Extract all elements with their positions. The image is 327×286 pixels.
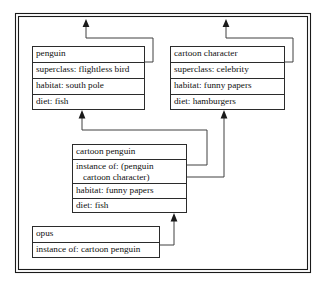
cartoon-character-frame-header: cartoon character xyxy=(171,47,284,63)
cartoon-character-slot-habitat: habitat: funny papers xyxy=(171,79,284,95)
cartoon-penguin-slot-diet: diet: fish xyxy=(73,199,186,214)
cartoon-penguin-frame-header: cartoon penguin xyxy=(73,145,186,160)
opus-frame-header: opus xyxy=(33,227,159,243)
penguin-slot-superclass: superclass: flightless bird xyxy=(33,63,144,79)
cartoon-penguin-frame[interactable]: cartoon penguin instance of: (penguin ca… xyxy=(72,144,187,213)
arrowhead-cartoon-character-superclass xyxy=(223,19,230,27)
arrowhead-opus-to-cartoon-penguin xyxy=(171,213,178,222)
connector-opus-to-cartoon-penguin xyxy=(160,221,174,245)
arrowhead-cartoon-penguin-to-penguin xyxy=(79,110,86,119)
penguin-frame-header: penguin xyxy=(33,47,144,63)
arrowhead-penguin-superclass xyxy=(83,19,90,27)
diagram-canvas: penguin superclass: flightless bird habi… xyxy=(0,0,327,286)
penguin-slot-habitat: habitat: south pole xyxy=(33,79,144,95)
connector-cartoon-penguin-to-cartoon-character xyxy=(187,118,224,177)
penguin-slot-diet: diet: fish xyxy=(33,95,144,111)
opus-frame[interactable]: opus instance of: cartoon penguin xyxy=(32,226,160,258)
opus-slot-instance-of: instance of: cartoon penguin xyxy=(33,243,159,258)
cartoon-character-slot-diet: diet: hamburgers xyxy=(171,95,284,111)
cartoon-penguin-slot-instance-of: instance of: (penguin cartoon character) xyxy=(73,160,186,184)
cartoon-penguin-slot-habitat: habitat: funny papers xyxy=(73,184,186,199)
penguin-frame[interactable]: penguin superclass: flightless bird habi… xyxy=(32,46,145,110)
cartoon-character-slot-superclass: superclass: celebrity xyxy=(171,63,284,79)
arrowhead-cartoon-penguin-to-cartoon-character xyxy=(221,110,228,119)
cartoon-character-frame[interactable]: cartoon character superclass: celebrity … xyxy=(170,46,285,110)
